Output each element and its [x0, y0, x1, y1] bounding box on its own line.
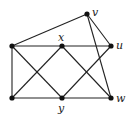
node-y: [59, 95, 64, 100]
node-b: [9, 95, 14, 100]
edge-v-u: [87, 14, 111, 46]
node-v: [84, 11, 89, 16]
label-u: u: [116, 40, 123, 51]
label-y: y: [58, 103, 64, 114]
label-v: v: [92, 7, 98, 18]
graph-diagram: x u v y w: [0, 0, 136, 116]
label-w: w: [116, 93, 125, 104]
edges: [12, 14, 111, 98]
node-x: [59, 43, 64, 48]
node-a: [9, 43, 14, 48]
node-w: [108, 95, 113, 100]
label-x: x: [58, 32, 64, 43]
edge-a-v: [12, 14, 87, 46]
node-u: [108, 43, 113, 48]
